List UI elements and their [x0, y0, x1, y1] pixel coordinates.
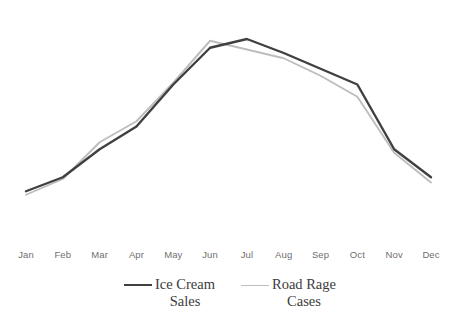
x-tick-label-dec: Dec	[409, 248, 453, 262]
plot-svg	[0, 0, 460, 248]
legend-label: Road RageCases	[272, 276, 336, 310]
x-axis-tick-labels: JanFebMarAprMayJunJulAugSepOctNovDec	[0, 248, 460, 274]
legend-swatch-icon	[124, 284, 152, 286]
legend-item-ice-cream-sales[interactable]: Ice CreamSales	[124, 276, 215, 310]
legend-swatch-icon	[241, 285, 269, 286]
legend-item-road-rage-cases[interactable]: Road RageCases	[241, 276, 336, 310]
line-chart: JanFebMarAprMayJunJulAugSepOctNovDec Ice…	[0, 0, 460, 323]
plot-area	[0, 0, 460, 248]
series-line-road-rage-cases	[26, 41, 431, 195]
chart-legend: Ice CreamSalesRoad RageCases	[0, 276, 460, 320]
legend-label: Ice CreamSales	[155, 276, 215, 310]
